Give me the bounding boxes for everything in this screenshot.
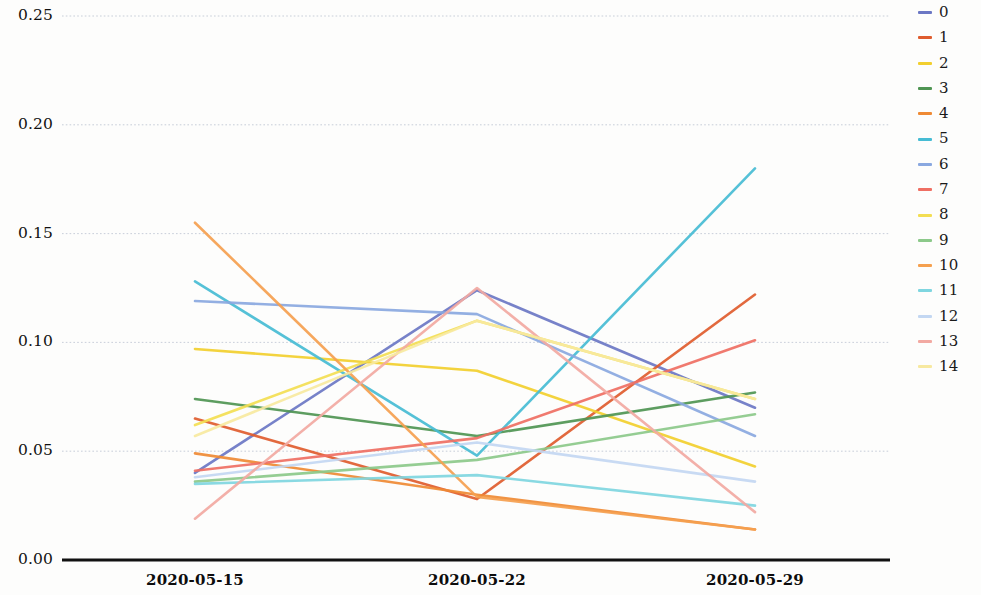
- legend-item-label: 8: [939, 202, 949, 227]
- legend-item-label: 4: [939, 101, 949, 126]
- legend-item-14[interactable]: 14: [918, 354, 981, 379]
- legend-item-label: 11: [939, 278, 959, 303]
- legend-color-swatch-icon: [918, 264, 932, 267]
- series-line-5: [195, 168, 755, 455]
- legend-item-10[interactable]: 10: [918, 253, 981, 278]
- x-tick-label: 2020-05-15: [145, 571, 245, 589]
- legend-item-label: 12: [939, 304, 959, 329]
- legend-item-label: 3: [939, 76, 949, 101]
- legend-item-label: 6: [939, 152, 949, 177]
- legend-color-swatch-icon: [918, 11, 932, 14]
- legend-item-label: 7: [939, 177, 949, 202]
- legend-item-label: 13: [939, 329, 959, 354]
- legend-item-label: 9: [939, 228, 949, 253]
- legend-item-label: 0: [939, 0, 949, 25]
- y-tick-label: 0.00: [18, 550, 53, 568]
- legend-item-12[interactable]: 12: [918, 304, 981, 329]
- legend-item-5[interactable]: 5: [918, 126, 981, 151]
- series-line-9: [195, 414, 755, 481]
- y-tick-label: 0.10: [18, 332, 53, 350]
- series-line-1: [195, 295, 755, 500]
- y-tick-label: 0.20: [18, 115, 53, 133]
- legend-item-label: 5: [939, 126, 949, 151]
- legend-item-9[interactable]: 9: [918, 228, 981, 253]
- plot-area: [0, 0, 910, 595]
- legend-item-label: 1: [939, 25, 949, 50]
- series-line-4: [195, 453, 755, 529]
- legend-color-swatch-icon: [918, 365, 932, 368]
- legend-color-swatch-icon: [918, 36, 932, 39]
- legend-item-2[interactable]: 2: [918, 51, 981, 76]
- y-tick-label: 0.15: [18, 224, 53, 242]
- y-tick-label: 0.25: [18, 6, 53, 24]
- legend-color-swatch-icon: [918, 239, 932, 242]
- legend-item-label: 14: [939, 354, 959, 379]
- legend-item-13[interactable]: 13: [918, 329, 981, 354]
- legend-item-6[interactable]: 6: [918, 152, 981, 177]
- chart-legend: 01234567891011121314: [918, 0, 981, 400]
- x-tick-label: 2020-05-22: [427, 571, 527, 589]
- legend-color-swatch-icon: [918, 62, 932, 65]
- legend-item-7[interactable]: 7: [918, 177, 981, 202]
- legend-color-swatch-icon: [918, 112, 932, 115]
- x-tick-label: 2020-05-29: [705, 571, 805, 589]
- legend-item-11[interactable]: 11: [918, 278, 981, 303]
- legend-color-swatch-icon: [918, 315, 932, 318]
- legend-item-label: 10: [939, 253, 959, 278]
- y-tick-label: 0.05: [18, 441, 53, 459]
- series-line-11: [195, 475, 755, 505]
- legend-item-1[interactable]: 1: [918, 25, 981, 50]
- legend-color-swatch-icon: [918, 340, 932, 343]
- legend-color-swatch-icon: [918, 138, 932, 141]
- line-chart: 0.000.050.100.150.200.25 2020-05-152020-…: [0, 0, 981, 595]
- legend-item-8[interactable]: 8: [918, 202, 981, 227]
- legend-item-3[interactable]: 3: [918, 76, 981, 101]
- legend-color-swatch-icon: [918, 163, 932, 166]
- legend-color-swatch-icon: [918, 188, 932, 191]
- plot-canvas: [0, 0, 910, 595]
- legend-color-swatch-icon: [918, 214, 932, 217]
- legend-item-4[interactable]: 4: [918, 101, 981, 126]
- legend-item-0[interactable]: 0: [918, 0, 981, 25]
- legend-item-label: 2: [939, 51, 949, 76]
- legend-color-swatch-icon: [918, 289, 932, 292]
- legend-color-swatch-icon: [918, 87, 932, 90]
